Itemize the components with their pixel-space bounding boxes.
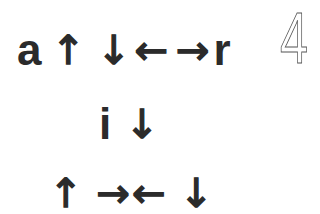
letter-r: r [214, 28, 231, 72]
puzzle-number: 4 [280, 2, 308, 74]
glyph-row-3: ↑ → ← ↓ [49, 173, 213, 213]
glyph-row-2: i ↓ [99, 102, 159, 146]
arrow-down-icon: ↓ [180, 173, 214, 213]
arrow-right-icon: → [97, 173, 131, 213]
arrow-up-icon: ↑ [51, 30, 85, 70]
letter-a: a [17, 28, 41, 72]
arrow-left-icon: ← [135, 30, 169, 70]
glyph-row-1: a ↑ ↓ ← → r [17, 28, 231, 72]
arrow-left-icon: ← [132, 173, 166, 213]
arrow-down-icon: ↓ [125, 104, 159, 144]
arrow-down-icon: ↓ [97, 30, 131, 70]
letter-i: i [99, 102, 111, 146]
arrow-up-icon: ↑ [49, 173, 83, 213]
arrow-right-icon: → [176, 30, 210, 70]
